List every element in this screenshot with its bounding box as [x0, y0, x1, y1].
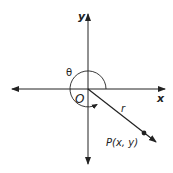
- x-axis-label: x: [156, 92, 165, 105]
- origin-label: O: [75, 92, 84, 106]
- radius-label: r: [121, 103, 126, 114]
- point-label: P(x, y): [106, 137, 138, 148]
- angle-label: θ: [66, 67, 72, 78]
- point-p: [142, 131, 147, 136]
- y-axis-label: y: [78, 10, 86, 23]
- polar-angle-diagram: y x θ O r P(x, y): [0, 0, 173, 173]
